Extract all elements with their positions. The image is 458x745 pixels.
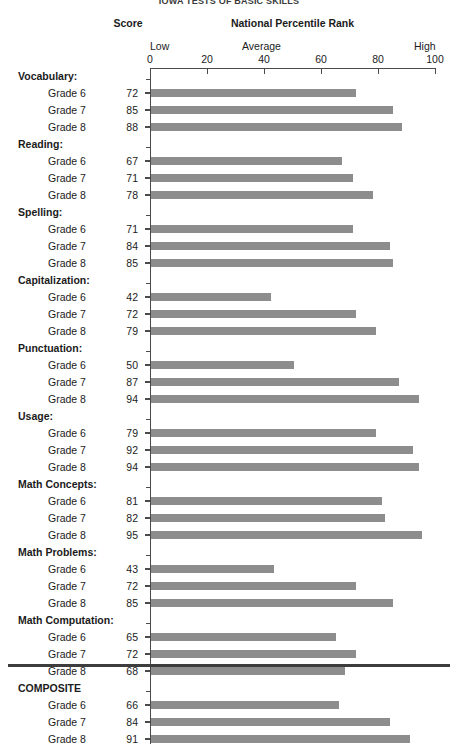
percentile-bar xyxy=(151,395,419,403)
grade-label: Grade 7 xyxy=(48,648,110,660)
grade-score-value: 72 xyxy=(112,580,138,592)
scale-label-average: Average xyxy=(242,40,281,52)
grade-score-value: 85 xyxy=(112,597,138,609)
percentile-bar xyxy=(151,310,356,318)
axis-vertical-line xyxy=(150,68,151,744)
grade-label: Grade 8 xyxy=(48,189,110,201)
subject-group-heading: Math Problems: xyxy=(18,546,97,558)
axis-tick-label: 40 xyxy=(258,53,270,65)
grade-score-value: 82 xyxy=(112,512,138,524)
grade-label: Grade 7 xyxy=(48,580,110,592)
percentile-bar xyxy=(151,531,422,539)
grade-score-value: 91 xyxy=(112,733,138,745)
axis-top-rail xyxy=(150,68,435,69)
percentile-bar xyxy=(151,565,274,573)
grade-score-value: 81 xyxy=(112,495,138,507)
group-axis-tick xyxy=(146,79,151,80)
group-axis-tick xyxy=(146,487,151,488)
percentile-bar xyxy=(151,463,419,471)
subject-group-heading: Spelling: xyxy=(18,206,62,218)
percentile-bar xyxy=(151,378,399,386)
axis-tick xyxy=(435,68,436,74)
grade-score-value: 87 xyxy=(112,376,138,388)
grade-label: Grade 8 xyxy=(48,325,110,337)
grade-label: Grade 8 xyxy=(48,597,110,609)
grade-score-value: 71 xyxy=(112,172,138,184)
percentile-bar xyxy=(151,225,353,233)
grade-label: Grade 6 xyxy=(48,563,110,575)
scale-zone-labels: Low Average High xyxy=(0,40,458,52)
scale-label-low: Low xyxy=(150,40,169,52)
grade-score-value: 71 xyxy=(112,223,138,235)
grade-label: Grade 7 xyxy=(48,716,110,728)
percentile-bar xyxy=(151,327,376,335)
grade-label: Grade 6 xyxy=(48,495,110,507)
grade-score-value: 50 xyxy=(112,359,138,371)
grade-score-value: 94 xyxy=(112,393,138,405)
grade-score-value: 84 xyxy=(112,716,138,728)
subject-group-heading: Math Computation: xyxy=(18,614,114,626)
subject-group-heading: COMPOSITE xyxy=(18,682,81,694)
group-axis-tick xyxy=(146,283,151,284)
scale-tick-labels: 020406080100 xyxy=(0,53,458,65)
grade-score-value: 72 xyxy=(112,308,138,320)
percentile-bar xyxy=(151,106,393,114)
grade-label: Grade 6 xyxy=(48,223,110,235)
percentile-bar xyxy=(151,293,271,301)
grade-label: Grade 6 xyxy=(48,359,110,371)
percentile-bar xyxy=(151,497,382,505)
subject-group-heading: Vocabulary: xyxy=(18,70,77,82)
axis-tick-label: 60 xyxy=(315,53,327,65)
percentile-bar xyxy=(151,650,356,658)
grade-score-value: 67 xyxy=(112,155,138,167)
axis-tick-label: 0 xyxy=(147,53,153,65)
percentile-bar xyxy=(151,123,402,131)
percentile-bar xyxy=(151,157,342,165)
axis-tick xyxy=(378,68,379,74)
percentile-bar xyxy=(151,242,390,250)
percentile-bar xyxy=(151,701,339,709)
percentile-bar xyxy=(151,191,373,199)
grade-score-value: 88 xyxy=(112,121,138,133)
group-axis-tick xyxy=(146,623,151,624)
group-axis-tick xyxy=(146,215,151,216)
subject-group-heading: Usage: xyxy=(18,410,53,422)
grade-label: Grade 8 xyxy=(48,461,110,473)
grade-score-value: 85 xyxy=(112,104,138,116)
scale-label-high: High xyxy=(414,40,436,52)
grade-label: Grade 7 xyxy=(48,512,110,524)
axis-tick xyxy=(207,68,208,74)
percentile-bar xyxy=(151,582,356,590)
subject-group-heading: Punctuation: xyxy=(18,342,82,354)
grade-label: Grade 8 xyxy=(48,393,110,405)
grade-label: Grade 7 xyxy=(48,444,110,456)
subject-group-heading: Reading: xyxy=(18,138,63,150)
percentile-bar xyxy=(151,718,390,726)
group-axis-tick xyxy=(146,691,151,692)
grade-label: Grade 6 xyxy=(48,291,110,303)
percentile-bar xyxy=(151,89,356,97)
percentile-bar xyxy=(151,429,376,437)
percentile-bar xyxy=(151,633,336,641)
bottom-divider xyxy=(8,664,450,667)
grade-label: Grade 6 xyxy=(48,155,110,167)
percentile-bar xyxy=(151,735,410,743)
grade-label: Grade 7 xyxy=(48,376,110,388)
grade-score-value: 43 xyxy=(112,563,138,575)
percentile-bar xyxy=(151,174,353,182)
grade-label: Grade 6 xyxy=(48,699,110,711)
group-axis-tick xyxy=(146,419,151,420)
grade-label: Grade 7 xyxy=(48,308,110,320)
axis-tick xyxy=(264,68,265,74)
grade-score-value: 78 xyxy=(112,189,138,201)
score-column-header: Score xyxy=(100,17,156,29)
percentile-bar xyxy=(151,259,393,267)
grade-label: Grade 8 xyxy=(48,529,110,541)
percentile-bar xyxy=(151,667,345,675)
group-axis-tick xyxy=(146,147,151,148)
grade-score-value: 85 xyxy=(112,257,138,269)
grade-label: Grade 8 xyxy=(48,121,110,133)
npr-column-header: National Percentile Rank xyxy=(150,17,435,29)
percentile-bar xyxy=(151,599,393,607)
grade-score-value: 65 xyxy=(112,631,138,643)
